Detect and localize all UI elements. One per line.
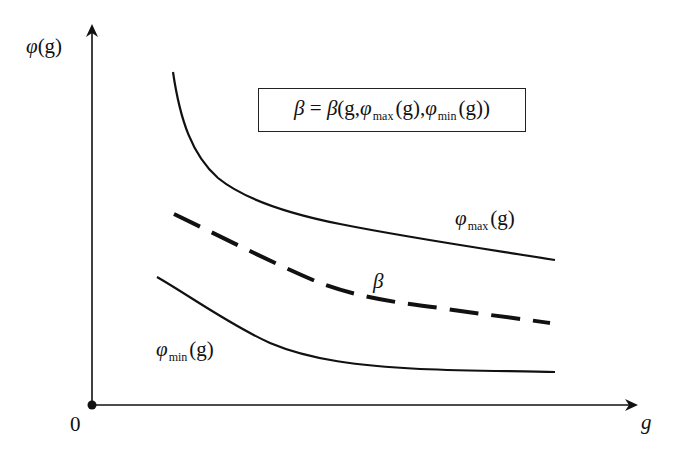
formula: β = β(g,φmax(g),φmin(g)): [294, 96, 490, 124]
formula-phi-min: φ: [425, 96, 437, 120]
y-axis-arg: (g): [38, 34, 63, 58]
formula-sub-min: min: [438, 109, 457, 123]
formula-phi-max: φ: [360, 96, 372, 120]
phi-min-sub: min: [169, 350, 188, 364]
formula-arg-max: (g),: [395, 96, 425, 120]
origin-dot: [88, 401, 97, 410]
formula-sub-max: max: [373, 109, 394, 123]
phi-min-symbol: φ: [156, 337, 168, 361]
phi-max-label: φmax(g): [455, 208, 515, 232]
phi-max-symbol: φ: [455, 206, 467, 230]
formula-fn: β: [327, 96, 337, 120]
phi-max-sub: max: [468, 219, 489, 233]
diagram-canvas: [0, 0, 673, 452]
y-axis-symbol: φ: [26, 34, 38, 58]
beta-label: β: [373, 271, 383, 292]
formula-box: β = β(g,φmax(g),φmin(g)): [258, 88, 526, 132]
x-axis-label: g: [641, 412, 652, 433]
phi-min-arg: (g): [189, 337, 214, 361]
phi-max-arg: (g): [490, 206, 515, 230]
formula-eq: =: [305, 96, 327, 120]
phi-min-curve: [157, 277, 555, 372]
phi-min-label: φmin(g): [156, 339, 214, 363]
formula-arg-min: (g)): [458, 96, 489, 120]
formula-lhs: β: [294, 96, 304, 120]
y-axis-label: φ(g): [26, 36, 62, 57]
origin-label: 0: [70, 414, 81, 435]
formula-open: (g,: [337, 96, 360, 120]
